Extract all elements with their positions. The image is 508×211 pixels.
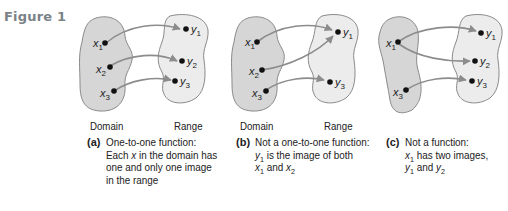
caption-b-line2: y1 is the image of both — [255, 149, 369, 162]
caption-c-line3: y1 and y2 — [405, 161, 488, 174]
caption-tag-a: (a) — [87, 136, 100, 149]
point-y3 — [172, 78, 178, 84]
caption-tag-c: (c) — [386, 136, 399, 149]
panel-b: x1 x2 x3 y1 y3 — [232, 15, 359, 112]
range-set-b — [308, 15, 358, 103]
point-x2 — [107, 64, 113, 70]
point-x1 — [102, 40, 108, 46]
caption-b-line1: Not a one-to-one function: — [255, 136, 369, 149]
caption-b-line3: x1 and x2 — [255, 161, 369, 174]
caption-tag-b: (b) — [236, 136, 250, 149]
point-x3 — [111, 88, 117, 94]
domain-label-a: Domain — [90, 120, 123, 132]
range-label-b: Range — [324, 120, 353, 132]
caption-c-line2: x1 has two images, — [405, 149, 488, 162]
caption-c-line1: Not a function: — [405, 136, 488, 149]
range-label-a: Range — [174, 120, 203, 132]
caption-a-line1: One-to-one function: — [106, 136, 217, 149]
function-mapping-diagrams: x1 x2 x3 y1 y2 y3 x1 x2 x3 y1 y3 — [0, 0, 508, 211]
panel-c: x1 x3 y1 y2 y3 — [379, 15, 502, 113]
point-y1 — [183, 26, 189, 32]
caption-a-line2: Each x in the domain has — [106, 149, 217, 162]
caption-a-line4: in the range — [106, 174, 217, 187]
caption-a-line3: one and only one image — [106, 161, 217, 174]
domain-label-b: Domain — [240, 120, 273, 132]
point-y2 — [179, 58, 185, 64]
panel-a: x1 x2 x3 y1 y2 y3 — [80, 15, 209, 112]
